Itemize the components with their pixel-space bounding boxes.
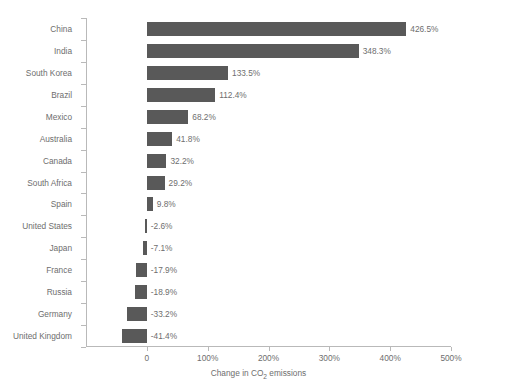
category-label: Brazil: [0, 90, 72, 100]
bar: [147, 66, 228, 80]
x-axis-tick: [269, 347, 270, 351]
bar-value-label: 68.2%: [192, 110, 216, 124]
category-label: China: [0, 24, 72, 34]
x-axis-tick: [451, 347, 452, 351]
bar: [127, 307, 147, 321]
bars-layer: 426.5%348.3%133.5%112.4%68.2%41.8%32.2%2…: [86, 18, 451, 347]
bar-value-label: 29.2%: [169, 176, 193, 190]
bar: [147, 197, 153, 211]
category-label: Germany: [0, 309, 72, 319]
category-label: South Africa: [0, 178, 72, 188]
bar: [147, 88, 215, 102]
category-label: Mexico: [0, 112, 72, 122]
bar: [147, 154, 167, 168]
category-label: Australia: [0, 134, 72, 144]
bar-value-label: -2.6%: [151, 219, 173, 233]
x-axis-tick-label: 300%: [319, 353, 340, 364]
x-axis-tick-label: 100%: [197, 353, 218, 364]
x-axis-tick: [147, 347, 148, 351]
category-label: United Kingdom: [0, 331, 72, 341]
bar-value-label: -7.1%: [151, 241, 173, 255]
category-label: Japan: [0, 243, 72, 253]
bar-value-label: -33.2%: [151, 307, 177, 321]
bar-value-label: 41.8%: [176, 132, 200, 146]
category-label: Spain: [0, 199, 72, 209]
x-axis-tick: [390, 347, 391, 351]
value-axis: 0100%200%300%400%500%: [86, 347, 451, 367]
bar: [147, 22, 406, 36]
bar-value-label: -41.4%: [151, 329, 177, 343]
bar: [147, 176, 165, 190]
bar-value-label: 426.5%: [410, 22, 438, 36]
x-axis-tick: [329, 347, 330, 351]
category-label: Russia: [0, 287, 72, 297]
bar: [147, 132, 172, 146]
category-axis: ChinaIndiaSouth KoreaBrazilMexicoAustral…: [0, 18, 80, 347]
bar-value-label: -17.9%: [151, 263, 177, 277]
co2-emissions-bar-chart: ChinaIndiaSouth KoreaBrazilMexicoAustral…: [0, 0, 517, 392]
x-axis-tick-label: 200%: [258, 353, 279, 364]
bar-value-label: -18.9%: [151, 285, 177, 299]
bar-value-label: 348.3%: [363, 44, 391, 58]
bar-value-label: 32.2%: [170, 154, 194, 168]
bar: [122, 329, 147, 343]
category-label: France: [0, 265, 72, 275]
x-axis-title-before: Change in CO: [211, 368, 264, 378]
x-axis-tick: [208, 347, 209, 351]
bar-value-label: 9.8%: [157, 197, 176, 211]
bar: [147, 44, 359, 58]
bar: [143, 241, 147, 255]
category-label: Canada: [0, 156, 72, 166]
bar: [145, 219, 147, 233]
x-axis-tick-label: 400%: [380, 353, 401, 364]
bar-value-label: 112.4%: [219, 88, 247, 102]
x-axis-tick-label: 500%: [440, 353, 461, 364]
x-axis-tick-label: 0: [145, 353, 150, 364]
x-axis-title: Change in CO2 emissions: [0, 368, 517, 380]
category-label: India: [0, 46, 72, 56]
category-label: South Korea: [0, 68, 72, 78]
bar: [135, 285, 146, 299]
bar-value-label: 133.5%: [232, 66, 260, 80]
x-axis-title-after: emissions: [267, 368, 306, 378]
bar: [136, 263, 147, 277]
category-label: United States: [0, 221, 72, 231]
bar: [147, 110, 188, 124]
